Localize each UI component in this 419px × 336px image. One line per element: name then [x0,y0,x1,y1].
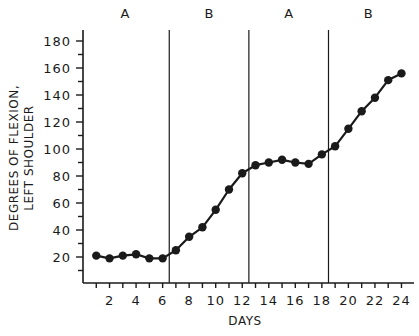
y-axis-title: DEGREES OF FLEXION, LEFT SHOULDER [7,85,36,231]
x-tick-label: 6 [158,293,167,308]
data-point [172,246,180,254]
data-point [371,94,379,102]
y-tick-label: 20 [52,250,71,265]
line-chart: ABAB 20406080100120140160180 24681012141… [0,0,419,336]
data-point [278,156,286,164]
data-point [238,169,246,177]
y-tick-label: 80 [52,169,71,184]
y-axis: 20406080100120140160180 [43,30,83,283]
x-tick-label: 10 [206,293,225,308]
x-tick-label: 24 [392,293,411,308]
y-axis-title-line-2: LEFT SHOULDER [22,105,36,210]
x-tick-label: 14 [260,293,279,308]
x-axis: 24681012141618202224 [83,283,414,308]
phase-labels: ABAB [121,6,373,21]
y-tick-label: 180 [43,34,71,49]
phase-label: B [364,6,373,21]
x-tick-label: 2 [105,293,114,308]
data-point [198,223,206,231]
phase-label: A [284,6,293,21]
data-point [145,254,153,262]
data-point [331,142,339,150]
data-point [251,161,259,169]
y-tick-label: 120 [43,115,71,130]
y-axis-title-line-1: DEGREES OF FLEXION, [7,85,21,231]
phase-label: A [121,6,130,21]
data-point [212,206,220,214]
x-tick-label: 22 [366,293,385,308]
y-tick-label: 60 [52,196,71,211]
data-point [158,254,166,262]
x-tick-label: 18 [313,293,332,308]
y-tick-label: 140 [43,88,71,103]
data-point [291,158,299,166]
phase-change-lines [169,30,328,283]
data-point [92,251,100,259]
x-tick-label: 16 [286,293,305,308]
data-point [304,160,312,168]
data-point [265,158,273,166]
data-point [225,185,233,193]
data-point [344,125,352,133]
data-point [119,251,127,259]
y-tick-label: 160 [43,61,71,76]
data-point [397,69,405,77]
data-point [132,250,140,258]
data-point [105,254,113,262]
x-axis-title: DAYS [228,314,261,328]
x-tick-label: 8 [185,293,194,308]
data-point [318,150,326,158]
y-tick-label: 40 [52,223,71,238]
data-point [185,233,193,241]
phase-label: B [205,6,214,21]
x-tick-label: 20 [339,293,358,308]
x-tick-label: 4 [131,293,140,308]
data-point [357,107,365,115]
x-tick-label: 12 [233,293,252,308]
y-tick-label: 100 [43,142,71,157]
data-point [384,76,392,84]
